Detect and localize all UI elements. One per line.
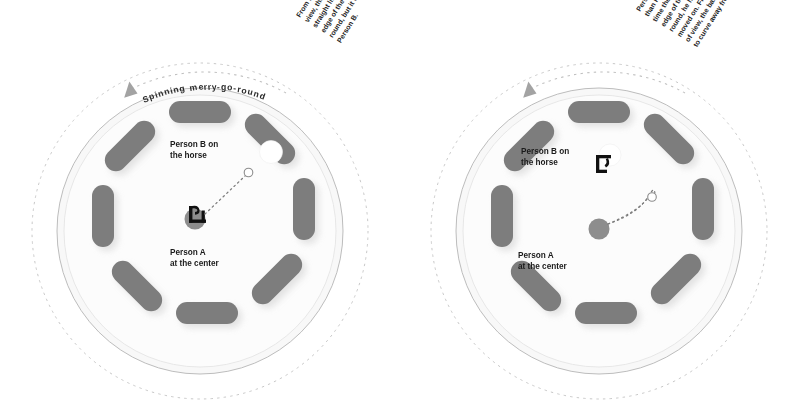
left-panel-svg: Person B on the horse Person A at the ce… — [0, 0, 403, 400]
horse — [176, 302, 238, 324]
horse — [491, 185, 513, 247]
spin-label-char: o — [227, 82, 233, 92]
person-b-label-line2: the horse — [170, 151, 207, 160]
merry-go-round-diagram: Person B on the horse Person A at the ce… — [0, 0, 806, 400]
spin-label-char: g — [178, 83, 185, 94]
rotation-arrowhead-icon — [120, 80, 138, 98]
panel-rotating-frame: Person B on the horse Person A at the ce… — [403, 0, 806, 400]
person-a-label-line1: Person A — [170, 248, 206, 257]
right-panel-svg: Person B on the horse Person A at the ce… — [403, 0, 806, 400]
spin-label-char: g — [221, 82, 226, 92]
annotation-left: From Person A's point of view, the ball … — [295, 0, 387, 44]
person-a-label-line2: at the center — [170, 259, 219, 268]
person-a-label-line1: Person A — [518, 251, 554, 260]
horse — [92, 185, 114, 247]
person-b-label-line1: Person B on — [521, 147, 569, 156]
person-b-label-line1: Person B on — [170, 140, 218, 149]
ball — [648, 193, 657, 202]
person-a-label-line2: at the center — [518, 262, 567, 271]
annotation-right: Person B is moving faster than Person A,… — [635, 0, 745, 49]
panel-inertial-frame: Person B on the horse Person A at the ce… — [0, 0, 403, 400]
ball — [244, 168, 253, 177]
horse — [568, 101, 630, 123]
person-b-label-line2: the horse — [521, 158, 558, 167]
spin-label-char: m — [189, 82, 199, 93]
spin-label-char: - — [217, 82, 220, 92]
horse — [293, 178, 315, 240]
horse — [692, 178, 714, 240]
person-b-marker-ball — [260, 141, 283, 164]
rotation-arrowhead-icon — [519, 80, 537, 98]
person-a-dot — [589, 219, 610, 240]
horse — [575, 302, 637, 324]
horse — [169, 101, 231, 123]
